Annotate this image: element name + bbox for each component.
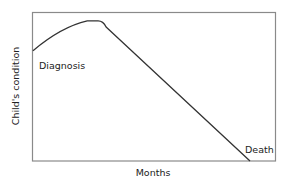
x-axis-label: Months [136,167,171,178]
diagnosis-annotation: Diagnosis [39,60,85,71]
y-axis-label: Child's condition [10,47,21,125]
plot-frame [33,13,276,162]
condition-line [33,21,250,161]
death-annotation: Death [245,144,274,155]
